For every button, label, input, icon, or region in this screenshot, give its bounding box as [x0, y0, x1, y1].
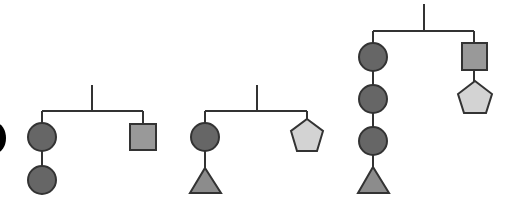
mobiles-diagram — [0, 0, 512, 210]
mobile-1 — [28, 85, 156, 194]
circle-shape — [28, 123, 56, 151]
mobile-3 — [358, 4, 492, 193]
triangle-shape — [358, 167, 389, 193]
square-shape — [130, 124, 156, 150]
circle-shape — [359, 127, 387, 155]
circle-shape — [191, 123, 219, 151]
triangle-shape — [190, 168, 221, 193]
pentagon-shape — [458, 81, 492, 113]
circle-shape — [359, 85, 387, 113]
square-shape — [462, 43, 487, 70]
circle-shape — [28, 166, 56, 194]
circle-shape — [359, 43, 387, 71]
mobile-2 — [190, 85, 323, 193]
edge-blob — [0, 123, 6, 153]
pentagon-shape — [291, 119, 323, 151]
